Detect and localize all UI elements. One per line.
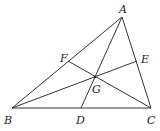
triangle-diagram: A B C D E F G [0, 0, 160, 131]
cevian-ad [81, 17, 122, 108]
cevian-be [12, 61, 137, 108]
label-a: A [118, 3, 127, 16]
label-d: D [75, 114, 85, 127]
label-e: E [140, 53, 149, 66]
point-g [94, 76, 96, 78]
label-b: B [3, 114, 12, 127]
label-f: F [59, 52, 68, 65]
label-g: G [92, 83, 101, 96]
label-c: C [147, 114, 156, 127]
